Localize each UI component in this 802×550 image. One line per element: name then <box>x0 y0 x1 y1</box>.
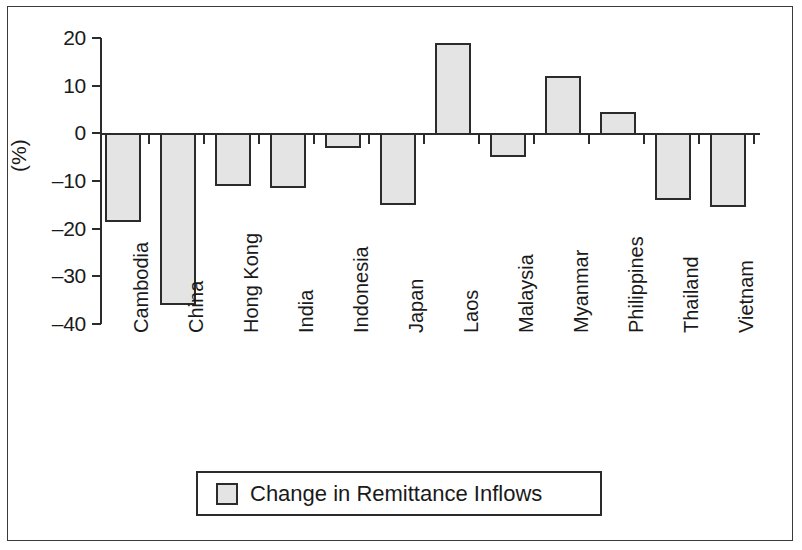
x-tick-5 <box>423 135 425 144</box>
y-tick-label-4: –20 <box>40 218 86 239</box>
bar-malaysia <box>490 133 526 157</box>
x-label-japan: Japan <box>406 279 426 334</box>
y-tick-6 <box>92 323 101 325</box>
x-label-indonesia: Indonesia <box>351 246 371 333</box>
x-label-china: China <box>186 281 206 333</box>
figure-border <box>7 6 793 541</box>
y-tick-0 <box>92 37 101 39</box>
x-label-vietnam: Vietnam <box>736 260 756 333</box>
x-tick-6 <box>478 135 480 144</box>
figure: (%) 20100–10–20–30–40 CambodiaChinaHong … <box>0 0 802 550</box>
y-tick-label-1: 10 <box>40 75 86 96</box>
bar-india <box>270 133 306 188</box>
y-tick-label-wrap-6: –40 <box>30 313 86 334</box>
x-label-myanmar: Myanmar <box>571 250 591 333</box>
x-tick-4 <box>368 135 370 144</box>
bar-thailand <box>655 133 691 200</box>
x-tick-11 <box>753 135 755 144</box>
y-tick-label-5: –30 <box>40 265 86 286</box>
x-tick-10 <box>698 135 700 144</box>
x-label-malaysia: Malaysia <box>516 254 536 333</box>
y-tick-5 <box>92 275 101 277</box>
bar-vietnam <box>710 133 746 207</box>
y-axis-title: (%) <box>8 139 29 172</box>
bar-china <box>160 133 196 305</box>
x-label-cambodia: Cambodia <box>131 242 151 333</box>
y-tick-3 <box>92 180 101 182</box>
bar-philippines <box>600 112 636 135</box>
x-label-thailand: Thailand <box>681 256 701 333</box>
y-tick-label-6: –40 <box>40 313 86 334</box>
y-tick-4 <box>92 228 101 230</box>
x-label-philippines: Philippines <box>626 236 646 333</box>
bar-laos <box>435 43 471 136</box>
y-tick-label-2: 0 <box>40 122 86 143</box>
x-label-laos: Laos <box>461 290 481 333</box>
x-tick-8 <box>588 135 590 144</box>
x-label-hong-kong: Hong Kong <box>241 233 261 333</box>
x-label-india: India <box>296 290 316 333</box>
bar-japan <box>380 133 416 205</box>
legend: Change in Remittance Inflows <box>196 471 602 516</box>
x-tick-9 <box>643 135 645 144</box>
bar-cambodia <box>105 133 141 221</box>
x-tick-3 <box>313 135 315 144</box>
x-tick-7 <box>533 135 535 144</box>
legend-swatch-icon <box>216 483 238 505</box>
legend-label: Change in Remittance Inflows <box>250 483 542 505</box>
y-tick-label-0: 20 <box>40 27 86 48</box>
bar-hong-kong <box>215 133 251 185</box>
bar-myanmar <box>545 76 581 135</box>
y-tick-label-wrap-5: –30 <box>30 265 86 286</box>
x-tick-0 <box>148 135 150 144</box>
y-tick-label-3: –10 <box>40 170 86 191</box>
y-tick-2 <box>92 132 101 134</box>
y-tick-label-wrap-3: –10 <box>30 170 86 191</box>
y-tick-1 <box>92 85 101 87</box>
y-tick-label-wrap-2: 0 <box>30 122 86 143</box>
y-tick-label-wrap-4: –20 <box>30 218 86 239</box>
bar-indonesia <box>325 133 361 147</box>
y-tick-label-wrap-0: 20 <box>30 27 86 48</box>
x-tick-1 <box>203 135 205 144</box>
x-tick-2 <box>258 135 260 144</box>
y-tick-label-wrap-1: 10 <box>30 75 86 96</box>
